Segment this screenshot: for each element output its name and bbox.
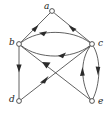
label-layer: a b c d e <box>9 1 103 106</box>
node-a[interactable] <box>50 9 55 14</box>
node-label-d: d <box>9 94 15 104</box>
edge-b-to-d <box>16 47 21 99</box>
edge-c-to-e <box>93 46 101 99</box>
graph-figure: a b c d e <box>0 0 107 116</box>
edge-a-to-b <box>21 13 50 42</box>
edge-b-to-d-arrowhead <box>16 65 21 73</box>
edge-layer <box>16 13 100 100</box>
node-label-b: b <box>9 37 15 47</box>
node-c[interactable] <box>90 42 95 47</box>
node-e[interactable] <box>90 99 95 104</box>
node-d[interactable] <box>17 99 22 104</box>
node-label-a: a <box>44 1 49 11</box>
edge-e-to-c-arrowhead <box>80 67 85 76</box>
node-b[interactable] <box>17 42 22 47</box>
graph-canvas: a b c d e <box>0 0 107 116</box>
edge-c-to-b <box>21 31 90 42</box>
edge-b-to-c <box>21 46 90 59</box>
edge-c-to-a-arrowhead <box>69 25 77 32</box>
node-label-c: c <box>98 38 103 48</box>
node-label-e: e <box>98 96 103 106</box>
edge-c-to-a <box>54 13 90 42</box>
edge-c-to-e-arrowhead <box>96 67 101 76</box>
edge-e-to-c <box>80 46 90 99</box>
